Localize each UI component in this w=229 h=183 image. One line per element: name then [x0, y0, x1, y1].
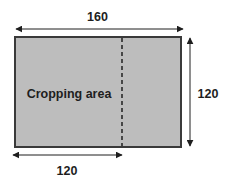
cropping-diagram: 160 120 120 Cropping area: [0, 0, 229, 183]
top-dimension-label: 160: [87, 10, 108, 24]
bottom-dimension-label: 120: [57, 164, 78, 178]
cropping-area-label: Cropping area: [27, 87, 113, 101]
right-dimension-label: 120: [198, 87, 219, 101]
